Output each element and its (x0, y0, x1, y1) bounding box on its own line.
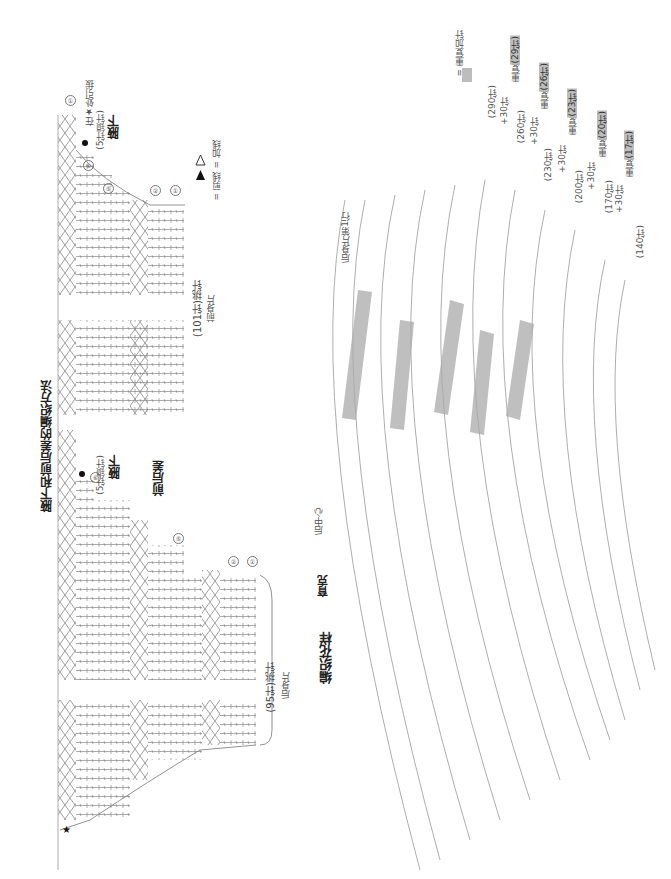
row-marker: ① (247, 556, 258, 567)
open-triangle-icon (196, 155, 205, 165)
repeat-26: 重复(26针) (537, 62, 550, 109)
legend-cut-yarn: = 剪线 (209, 172, 222, 200)
front-star-note: 在★处引拔 (82, 80, 95, 126)
underarm-dot-icon-back (79, 471, 85, 477)
section2-title: 编织花样 (316, 632, 335, 684)
star-icon: ★ (62, 824, 71, 835)
row-marker: ⑤ (173, 533, 184, 544)
front-back-diff-label: 前后差 (150, 460, 167, 496)
row-marker: ① (65, 95, 76, 106)
row-7-plus: +30针 (555, 145, 568, 173)
row-marker: ⑥ (90, 472, 101, 483)
back-piece-name: 后身片 (278, 672, 291, 699)
repeat-increase-shading (342, 290, 534, 435)
row-9-count: (260针) (514, 110, 527, 143)
front-underarm-label: 腋下 (105, 115, 122, 139)
legend-repeat-increase: = 重复加针 (452, 30, 465, 76)
back-piece-count: (95针)挑针 (263, 662, 278, 713)
section1-title: 腋下和前后差的编织方法 (38, 380, 55, 512)
row-1-count: (140针) (633, 225, 646, 258)
repeat-29: 重复(29针) (508, 35, 521, 82)
row-3-plus: +30针 (612, 185, 625, 213)
back-underarm-label: 腋下 (106, 455, 123, 479)
repeat-17: 重复(17针) (622, 130, 635, 177)
row-11-plus: +30针 (497, 97, 510, 125)
repeat-23: 重复(23针) (565, 88, 578, 135)
row-marker: ⑥ (83, 160, 94, 171)
row-marker: ② (228, 556, 239, 567)
repeat-20: 重复(20针) (595, 110, 608, 157)
underarm-dot-icon (82, 140, 88, 146)
filled-triangle-icon (196, 170, 205, 180)
row-marker: ② (150, 185, 161, 196)
row-marker: ① (170, 185, 181, 196)
back-center-label: 后中心 (311, 508, 324, 535)
legend-add-yarn: = 加线 (209, 140, 222, 168)
row-marker: ⑤ (103, 183, 114, 194)
front-piece-name: 前身片 (203, 295, 216, 322)
back-row1-label: 后身片第1行 (338, 212, 351, 263)
yoke-chart (333, 180, 655, 870)
section2-subtitle: 育克 (316, 575, 332, 597)
row-9-plus: +30针 (527, 117, 540, 145)
row-5-plus: +30针 (584, 162, 597, 190)
row-7-count: (230针) (541, 148, 554, 181)
